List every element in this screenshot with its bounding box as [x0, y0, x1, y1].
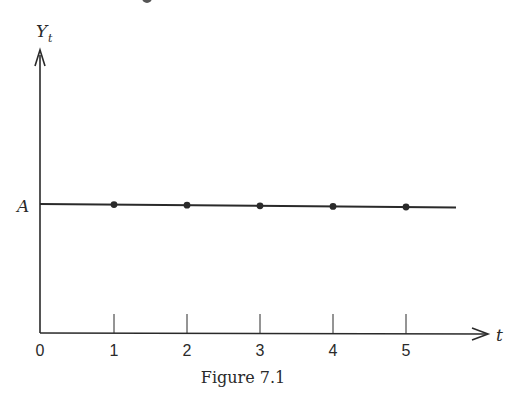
data-point [184, 202, 191, 209]
tick-label-2: 2 [183, 342, 192, 359]
tick-label-5: 5 [402, 342, 411, 359]
series-line [40, 204, 456, 208]
cut-off-glyph [142, 0, 152, 3]
data-point [330, 203, 337, 210]
figure-canvas: Y t A t 0 1 2 3 4 5 Figure 7.1 [0, 0, 512, 401]
x-axis [40, 333, 486, 334]
tick-label-0: 0 [36, 342, 45, 359]
tick-label-1: 1 [110, 342, 119, 359]
data-point [403, 204, 410, 211]
tick-label-4: 4 [329, 342, 338, 359]
x-tick-labels: 0 1 2 3 4 5 [36, 342, 411, 359]
y-axis-subscript: t [48, 32, 53, 45]
level-label: A [15, 196, 29, 216]
data-point [257, 202, 264, 209]
x-ticks [114, 314, 406, 334]
data-point [111, 201, 118, 208]
x-axis-label: t [496, 325, 503, 345]
tick-label-3: 3 [256, 342, 265, 359]
figure-caption: Figure 7.1 [201, 368, 285, 387]
